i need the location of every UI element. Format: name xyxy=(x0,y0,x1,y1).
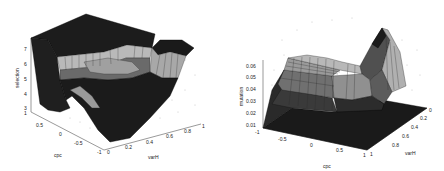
svg-text:0: 0 xyxy=(107,149,110,155)
svg-text:4: 4 xyxy=(24,91,27,97)
svg-text:-0.5: -0.5 xyxy=(278,136,287,142)
selection-surface-svg: 7 6 5 4 3 1 selection 0.5 0 -0.5 -1 cpc … xyxy=(0,0,222,171)
svg-text:-1: -1 xyxy=(255,129,260,135)
cpc-axis-ticks: 0.5 0 -0.5 -1 xyxy=(36,122,102,155)
z-axis-ticks: 7 6 5 4 3 1 xyxy=(24,46,27,116)
svg-text:0: 0 xyxy=(429,107,432,113)
svg-text:0.05: 0.05 xyxy=(246,74,256,80)
cpc-axis-label: cpc xyxy=(54,152,62,158)
svg-text:0: 0 xyxy=(310,142,313,148)
svg-text:0.2: 0.2 xyxy=(420,115,427,121)
svg-text:0.5: 0.5 xyxy=(336,147,343,153)
svg-text:-0.5: -0.5 xyxy=(74,140,83,146)
varH-axis-label: varH xyxy=(405,150,416,156)
svg-text:0: 0 xyxy=(59,131,62,137)
svg-text:1: 1 xyxy=(202,123,205,129)
svg-text:-1: -1 xyxy=(97,149,102,155)
svg-text:0.4: 0.4 xyxy=(146,139,153,145)
svg-text:0.04: 0.04 xyxy=(246,86,256,92)
svg-text:0.5: 0.5 xyxy=(36,122,43,128)
svg-text:0.6: 0.6 xyxy=(402,133,409,139)
svg-text:1: 1 xyxy=(363,152,366,158)
svg-text:1: 1 xyxy=(370,151,373,157)
svg-text:0.02: 0.02 xyxy=(246,110,256,116)
svg-text:1: 1 xyxy=(24,110,27,116)
z-axis-label: selection xyxy=(14,68,20,88)
cpc-axis-label: cpc xyxy=(323,163,331,169)
svg-text:0.8: 0.8 xyxy=(184,128,191,134)
svg-text:0.6: 0.6 xyxy=(166,133,173,139)
z-axis-label: mutation xyxy=(238,87,244,106)
mutation-surface-svg: 0.06 0.05 0.04 0.03 0.02 0.01 mutation -… xyxy=(222,0,444,171)
svg-text:0.01: 0.01 xyxy=(246,122,256,128)
svg-text:6: 6 xyxy=(24,61,27,67)
svg-text:0.03: 0.03 xyxy=(246,98,256,104)
mutation-surface-plot: 0.06 0.05 0.04 0.03 0.02 0.01 mutation -… xyxy=(222,0,444,171)
z-axis-ticks: 0.06 0.05 0.04 0.03 0.02 0.01 xyxy=(246,63,256,128)
svg-text:0.2: 0.2 xyxy=(125,144,132,150)
svg-text:0.8: 0.8 xyxy=(392,142,399,148)
selection-surface-plot: 7 6 5 4 3 1 selection 0.5 0 -0.5 -1 cpc … xyxy=(0,0,222,171)
svg-text:5: 5 xyxy=(24,76,27,82)
varH-axis-label: varH xyxy=(148,154,159,160)
svg-text:0.06: 0.06 xyxy=(246,63,256,69)
svg-text:0.4: 0.4 xyxy=(411,124,418,130)
svg-text:7: 7 xyxy=(24,46,27,52)
